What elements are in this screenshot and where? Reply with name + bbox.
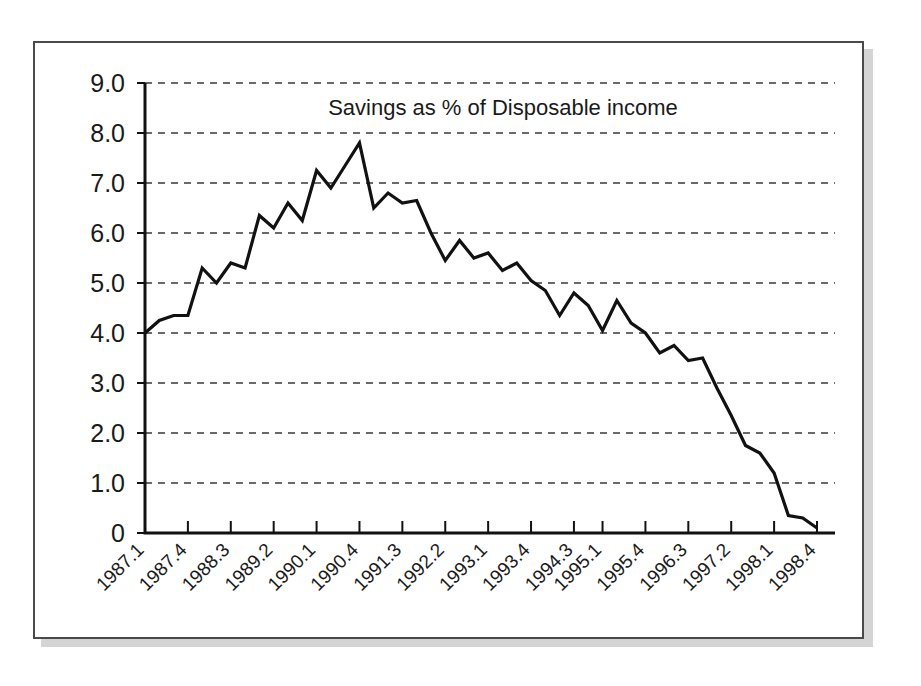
y-tick-label: 6.0 (90, 219, 125, 247)
y-tick-label: 8.0 (90, 119, 125, 147)
data-series-group (145, 143, 817, 528)
y-tick-label: 5.0 (90, 269, 125, 297)
data-line-series (145, 143, 817, 528)
chart-title: Savings as % of Disposable income (328, 95, 678, 120)
x-tick-marks-group (145, 521, 817, 533)
y-axis-tick-labels: 9.08.07.06.05.04.03.02.01.00 (90, 69, 125, 547)
x-axis-tick-labels: 1987.11987.41988.31989.21990.11990.41991… (92, 539, 820, 595)
chart-figure-root: 9.08.07.06.05.04.03.02.01.00 1987.11987.… (0, 0, 921, 686)
x-tick-label: 1989.2 (221, 539, 277, 595)
x-tick-label: 1992.2 (392, 539, 448, 595)
x-tick-label: 1993.1 (435, 539, 491, 595)
axis-lines (145, 83, 835, 533)
chart-frame-border: 9.08.07.06.05.04.03.02.01.00 1987.11987.… (33, 41, 864, 639)
x-tick-label: 1995.4 (592, 539, 648, 595)
gridlines-group (145, 83, 835, 483)
y-tick-label: 7.0 (90, 169, 125, 197)
chart-title-group: Savings as % of Disposable income (328, 95, 678, 120)
x-tick-label: 1991.3 (349, 539, 405, 595)
y-tick-label: 9.0 (90, 69, 125, 97)
line-chart-canvas: 9.08.07.06.05.04.03.02.01.00 1987.11987.… (35, 43, 866, 641)
x-tick-label: 1987.4 (135, 539, 191, 595)
x-tick-label: 1990.1 (263, 539, 319, 595)
axis-frame-line (145, 83, 835, 533)
x-tick-label: 1988.3 (178, 539, 234, 595)
x-tick-label: 1998.4 (764, 539, 820, 595)
x-tick-label: 1990.4 (306, 539, 362, 595)
x-tick-label: 1997.2 (678, 539, 734, 595)
x-tick-label: 1987.1 (92, 539, 148, 595)
y-tick-label: 2.0 (90, 419, 125, 447)
x-tick-label: 1993.4 (478, 539, 534, 595)
y-tick-label: 3.0 (90, 369, 125, 397)
y-tick-label: 4.0 (90, 319, 125, 347)
x-tick-label: 1996.3 (635, 539, 691, 595)
y-tick-label: 0 (111, 519, 125, 547)
x-tick-label: 1998.1 (721, 539, 777, 595)
y-tick-label: 1.0 (90, 469, 125, 497)
plot-area-wrapper: 9.08.07.06.05.04.03.02.01.00 1987.11987.… (35, 43, 862, 637)
